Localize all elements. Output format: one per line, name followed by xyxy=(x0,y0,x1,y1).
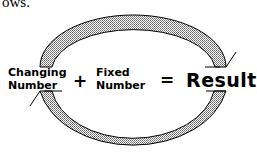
top-arc-arrow xyxy=(40,15,236,67)
bottom-arc-arrow xyxy=(30,91,226,145)
result-label: Result xyxy=(186,69,257,91)
fixed-number-label: Fixed Number xyxy=(96,66,145,92)
changing-number-label: Changing Number xyxy=(8,66,67,92)
plus-sign: + xyxy=(73,71,87,91)
equals-sign: = xyxy=(160,70,174,90)
